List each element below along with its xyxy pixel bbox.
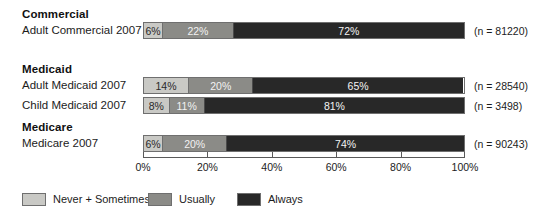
legend-label: Never + Sometimes xyxy=(53,193,150,205)
bar-segment-always: 81% xyxy=(205,98,464,113)
axis-line xyxy=(143,157,465,158)
bar-segment-never: 8% xyxy=(144,98,170,113)
stacked-bar-chart: CommercialAdult Commercial 20076%22%72%(… xyxy=(0,0,554,218)
bar-track: 6%20%74% xyxy=(143,135,465,152)
bar-segment-usually: 22% xyxy=(163,23,233,38)
row-label: Medicare 2007 xyxy=(22,137,98,149)
group-heading-medicaid: Medicaid xyxy=(22,63,72,75)
axis-tick xyxy=(272,152,273,157)
bar-segment-always: 72% xyxy=(234,23,464,38)
chart-legend: Never + SometimesUsuallyAlways xyxy=(0,188,554,210)
row-label: Adult Medicaid 2007 xyxy=(22,79,126,91)
bar-segment-never: 14% xyxy=(144,78,189,93)
axis-tick xyxy=(207,152,208,157)
legend-item-always[interactable]: Always xyxy=(237,188,303,210)
legend-swatch-usually xyxy=(148,193,172,206)
sample-size-label: (n = 90243) xyxy=(474,138,528,150)
legend-swatch-never xyxy=(22,193,46,206)
group-heading-medicare: Medicare xyxy=(22,121,73,133)
sample-size-label: (n = 28540) xyxy=(474,80,528,92)
axis-tick-label: 60% xyxy=(326,161,347,173)
row-label: Adult Commercial 2007 xyxy=(22,24,142,36)
legend-label: Always xyxy=(268,193,303,205)
axis-tick xyxy=(336,152,337,157)
legend-swatch-always xyxy=(237,193,261,206)
legend-item-never[interactable]: Never + Sometimes xyxy=(22,188,150,210)
axis-tick-label: 80% xyxy=(390,161,411,173)
bar-segment-never: 6% xyxy=(144,136,163,151)
group-heading-commercial: Commercial xyxy=(22,8,89,20)
axis-tick-label: 0% xyxy=(135,161,150,173)
legend-item-usually[interactable]: Usually xyxy=(148,188,215,210)
bar-segment-usually: 20% xyxy=(163,136,227,151)
bar-track: 6%22%72% xyxy=(143,22,465,39)
axis-tick-label: 40% xyxy=(261,161,282,173)
row-label: Child Medicaid 2007 xyxy=(22,99,126,111)
bar-segment-usually: 20% xyxy=(189,78,253,93)
sample-size-label: (n = 81220) xyxy=(474,25,528,37)
axis-tick-label: 100% xyxy=(452,161,479,173)
axis-tick xyxy=(401,152,402,157)
legend-label: Usually xyxy=(179,193,215,205)
sample-size-label: (n = 3498) xyxy=(474,100,522,112)
bar-track: 8%11%81% xyxy=(143,97,465,114)
bar-segment-always: 65% xyxy=(253,78,462,93)
bar-segment-never: 6% xyxy=(144,23,163,38)
bar-segment-usually: 11% xyxy=(170,98,205,113)
axis-tick xyxy=(464,152,465,157)
bar-segment-always: 74% xyxy=(227,136,464,151)
axis-tick xyxy=(143,152,144,157)
bar-track: 14%20%65% xyxy=(143,77,465,94)
axis-tick-label: 20% xyxy=(197,161,218,173)
